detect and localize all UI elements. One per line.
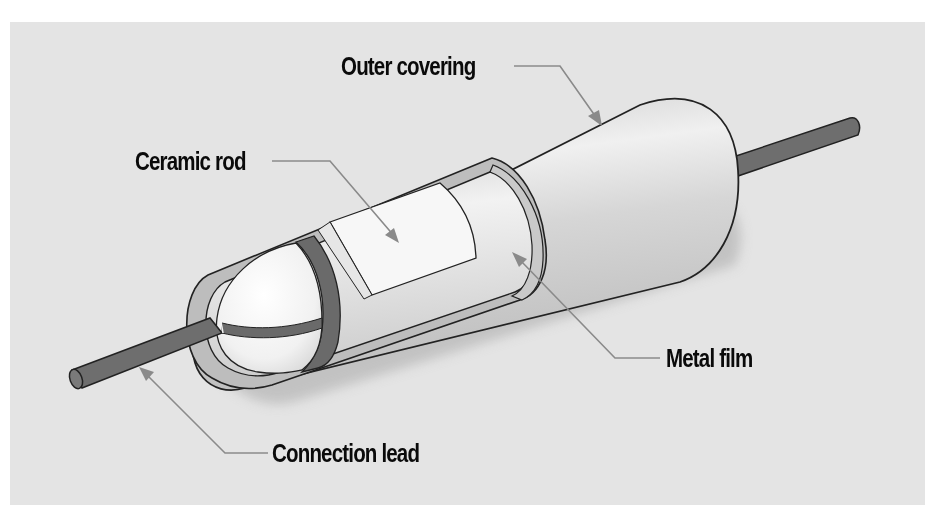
label-connection-lead: Connection lead bbox=[272, 441, 419, 466]
leader-outer-covering bbox=[514, 66, 598, 120]
ceramic-rod-dome bbox=[216, 243, 322, 373]
right-connection-lead bbox=[730, 118, 860, 176]
label-metal-film: Metal film bbox=[666, 346, 752, 371]
arrowhead-outer-covering bbox=[588, 110, 602, 126]
label-ceramic-rod: Ceramic rod bbox=[135, 149, 246, 174]
label-outer-covering: Outer covering bbox=[341, 54, 475, 79]
